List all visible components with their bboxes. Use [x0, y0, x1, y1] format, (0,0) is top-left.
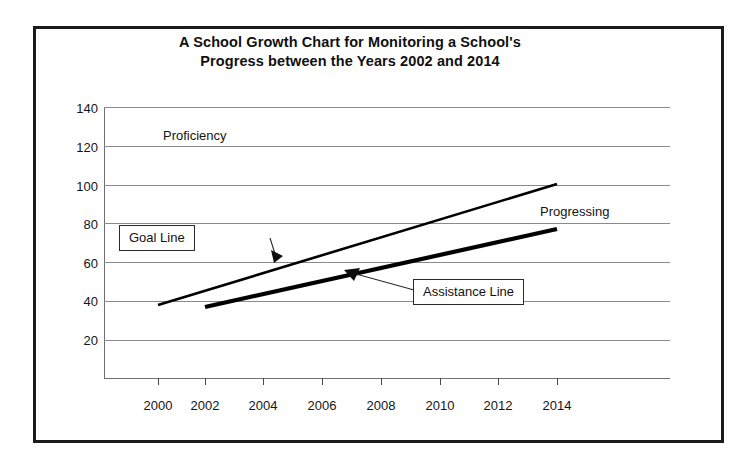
y-tick-label: 60 [52, 256, 98, 271]
y-tick-label: 80 [52, 217, 98, 232]
x-axis-tick-labels: 2000 2002 2004 2006 2008 2010 2012 2014 [104, 0, 670, 466]
x-tick-label: 2014 [527, 398, 587, 413]
y-tick-label: 20 [52, 333, 98, 348]
y-tick-label: 140 [52, 101, 98, 116]
y-tick-label: 120 [52, 140, 98, 155]
x-tick-label: 2010 [410, 398, 470, 413]
x-tick-label: 2002 [175, 398, 235, 413]
x-tick-label: 2006 [292, 398, 352, 413]
x-tick-label: 2012 [468, 398, 528, 413]
y-tick-label: 100 [52, 179, 98, 194]
chart-screenshot: A School Growth Chart for Monitoring a S… [0, 0, 752, 466]
y-axis-tick-labels: 140 120 100 80 60 40 20 [52, 107, 98, 379]
x-tick-label: 2008 [351, 398, 411, 413]
y-tick-label: 40 [52, 294, 98, 309]
x-tick-label: 2004 [233, 398, 293, 413]
